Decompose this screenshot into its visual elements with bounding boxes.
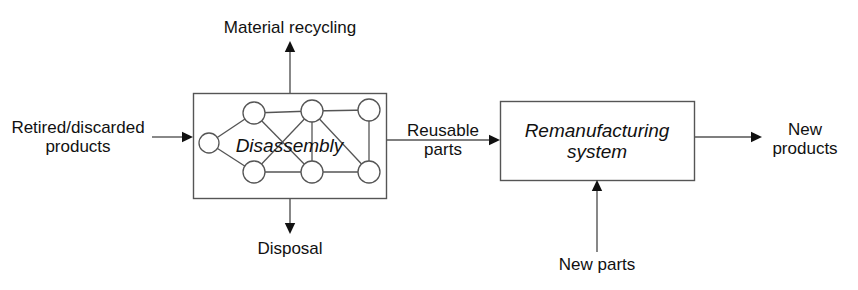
label-material-recycling: Material recycling	[224, 18, 356, 37]
graph-node	[199, 133, 219, 153]
graph-node	[301, 100, 323, 122]
label-reusable-parts: Reusable parts	[407, 121, 479, 159]
new-parts-arrow	[592, 180, 602, 252]
remanufacturing-flow-diagram: DisassemblyRemanufacturing systemMateria…	[0, 0, 858, 290]
disposal-arrow	[285, 198, 295, 234]
material-recycling-arrow	[285, 41, 295, 93]
new-products-arrow	[694, 132, 762, 142]
box-label-remanufacturing: Remanufacturing system	[525, 119, 670, 162]
box-label-disassembly: Disassembly	[236, 135, 344, 156]
input-arrow	[152, 132, 193, 142]
graph-node	[358, 161, 380, 183]
label-new-products: New products	[772, 120, 837, 158]
graph-node	[301, 161, 323, 183]
label-retired-discarded-products: Retired/discarded products	[11, 118, 144, 156]
graph-node	[243, 102, 265, 124]
label-new-parts: New parts	[559, 255, 636, 274]
label-disposal: Disposal	[257, 239, 322, 258]
graph-node	[358, 99, 380, 121]
graph-node	[243, 161, 265, 183]
